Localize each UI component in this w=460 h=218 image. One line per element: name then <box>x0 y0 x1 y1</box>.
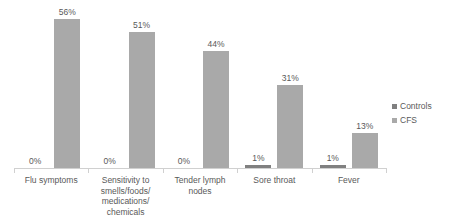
bar-group: 1%13% <box>312 8 386 168</box>
bar-pair: 1%31% <box>237 8 311 168</box>
bar-pair: 0%44% <box>163 8 237 168</box>
legend-item-controls[interactable]: Controls <box>392 100 454 112</box>
bar-value-label: 0% <box>88 156 132 166</box>
bar-cfs <box>203 51 229 168</box>
x-axis-line <box>14 168 386 169</box>
bar-cfs <box>129 32 155 168</box>
axis-tick <box>163 168 164 173</box>
bar-value-label: 13% <box>343 121 387 131</box>
bar-value-label: 44% <box>194 39 238 49</box>
bar-value-label: 0% <box>162 156 206 166</box>
axis-tick <box>386 168 387 173</box>
category-label: Fever <box>312 175 386 186</box>
bar-group: 0%51% <box>88 8 162 168</box>
axis-tick <box>237 168 238 173</box>
bar-chart: 0%56%0%51%0%44%1%31%1%13% Flu symptomsSe… <box>0 0 460 218</box>
legend-swatch-icon <box>392 104 397 109</box>
bar-value-label: 31% <box>268 73 312 83</box>
axis-tick <box>14 168 15 173</box>
bar-group: 1%31% <box>237 8 311 168</box>
plot-area: 0%56%0%51%0%44%1%31%1%13% <box>14 8 386 168</box>
category-label: Sensitivity tosmells/foods/medications/c… <box>88 175 162 217</box>
bar-pair: 0%51% <box>88 8 162 168</box>
bar-value-label: 51% <box>120 20 164 30</box>
bar-group: 0%44% <box>163 8 237 168</box>
bar-pair: 1%13% <box>312 8 386 168</box>
axis-tick <box>88 168 89 173</box>
bar-value-label: 56% <box>45 7 89 17</box>
bar-group: 0%56% <box>14 8 88 168</box>
legend-label: Controls <box>400 101 432 111</box>
legend-label: CFS <box>400 115 417 125</box>
category-label: Tender lymphnodes <box>163 175 237 196</box>
category-axis-labels: Flu symptomsSensitivity tosmells/foods/m… <box>14 175 386 218</box>
bar-pair: 0%56% <box>14 8 88 168</box>
bar-value-label: 1% <box>311 153 355 163</box>
bar-value-label: 0% <box>13 156 57 166</box>
category-label: Sore throat <box>237 175 311 186</box>
bar-cfs <box>277 85 303 168</box>
bar-value-label: 1% <box>236 153 280 163</box>
chart-legend: ControlsCFS <box>392 100 454 128</box>
axis-tick <box>312 168 313 173</box>
legend-item-cfs[interactable]: CFS <box>392 114 454 126</box>
bar-cfs <box>352 133 378 168</box>
legend-swatch-icon <box>392 118 397 123</box>
category-label: Flu symptoms <box>14 175 88 186</box>
bar-cfs <box>54 19 80 168</box>
